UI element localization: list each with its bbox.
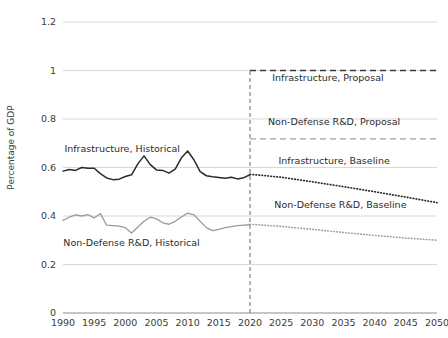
x-axis-tick-2000: 2000	[113, 317, 137, 328]
gdp-percentage-line-chart: 00.20.40.60.811.2 1990199520002005201020…	[0, 0, 448, 338]
y-axis-tick-0.2: 0.2	[41, 259, 56, 270]
x-axis-tick-1990: 1990	[51, 317, 75, 328]
y-axis-tick-0.4: 0.4	[41, 210, 56, 221]
y-axis-tick-0.8: 0.8	[41, 113, 56, 124]
annotation-infrastructure-historical: Infrastructure, Historical	[64, 143, 180, 154]
x-axis-tick-2045: 2045	[394, 317, 418, 328]
annotation-non-defense-randd-proposal: Non-Defense R&D, Proposal	[268, 116, 400, 127]
x-axis-tick-2005: 2005	[144, 317, 168, 328]
x-axis-tick-2015: 2015	[207, 317, 231, 328]
x-axis-tick-2050: 2050	[425, 317, 448, 328]
x-axis-tick-label-group: 1990199520002005201020152020202520302035…	[51, 317, 448, 328]
series-non-defense-randd-baseline	[250, 224, 437, 240]
chart-container: 00.20.40.60.811.2 1990199520002005201020…	[0, 0, 448, 338]
series-infrastructure-historical	[63, 151, 250, 180]
annotation-infrastructure-proposal: Infrastructure, Proposal	[272, 72, 383, 83]
y-axis-title: Percentage of GDP	[6, 105, 16, 190]
series-annotation-group: Infrastructure, HistoricalNon-Defense R&…	[63, 72, 406, 248]
x-axis-tick-2035: 2035	[331, 317, 355, 328]
x-axis-tick-2040: 2040	[363, 317, 387, 328]
annotation-non-defense-randd-baseline: Non-Defense R&D, Baseline	[274, 199, 406, 210]
annotation-infrastructure-baseline: Infrastructure, Baseline	[278, 155, 389, 166]
x-axis-tick-1995: 1995	[82, 317, 106, 328]
x-axis-tick-2010: 2010	[176, 317, 200, 328]
y-axis-tick-1.2: 1.2	[41, 16, 56, 27]
x-axis-tick-2020: 2020	[238, 317, 262, 328]
annotation-non-defense-randd-historical: Non-Defense R&D, Historical	[63, 237, 199, 248]
y-axis-tick-0.6: 0.6	[41, 162, 56, 173]
y-axis-title-group: Percentage of GDP	[6, 105, 16, 190]
y-axis-tick-label-group: 00.20.40.60.811.2	[41, 16, 56, 318]
y-axis-tick-1: 1	[50, 65, 56, 76]
x-axis-tick-2025: 2025	[269, 317, 293, 328]
x-axis-tick-2030: 2030	[300, 317, 324, 328]
